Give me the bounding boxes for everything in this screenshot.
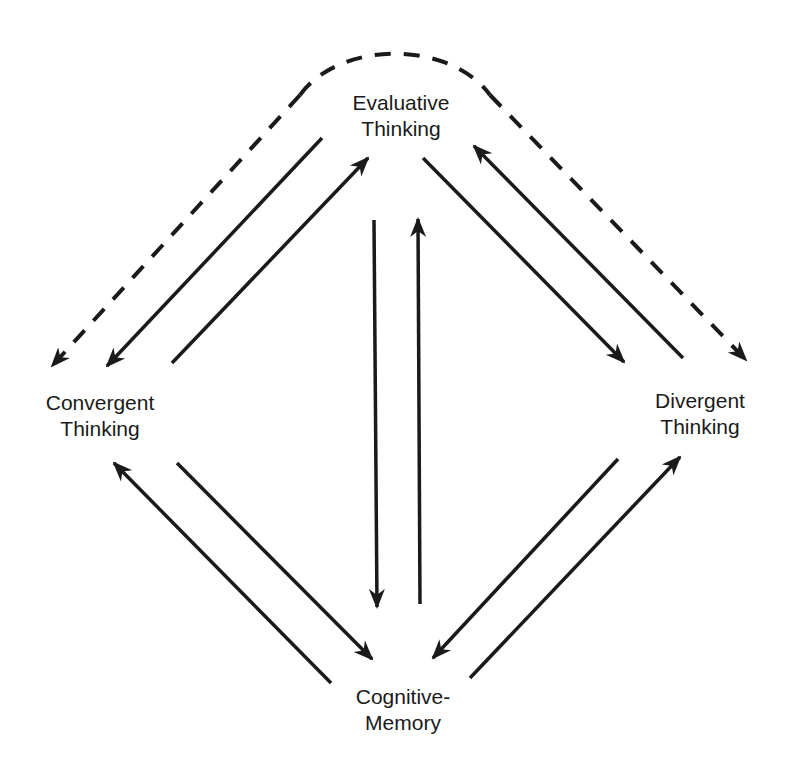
node-divergent-line-1: Divergent bbox=[655, 388, 745, 414]
node-evaluative-thinking: Evaluative Thinking bbox=[353, 90, 450, 142]
edge-convergent-to-evaluative bbox=[172, 158, 368, 363]
node-evaluative-line-1: Evaluative bbox=[353, 90, 450, 116]
edge-divergent-to-evaluative bbox=[474, 146, 683, 358]
edge-cognitive-to-convergent bbox=[114, 463, 331, 683]
node-evaluative-line-2: Thinking bbox=[353, 116, 450, 142]
edge-cognitive-to-evaluative bbox=[418, 219, 420, 604]
dashed-arc-edge bbox=[300, 54, 490, 95]
edge-evaluative-to-divergent bbox=[423, 158, 624, 362]
node-cognitive-memory: Cognitive- Memory bbox=[356, 684, 451, 736]
node-convergent-thinking: Convergent Thinking bbox=[46, 390, 155, 442]
dashed-edge-evaluative-to-convergent bbox=[52, 95, 300, 366]
edge-cognitive-to-divergent bbox=[470, 457, 680, 678]
node-divergent-line-2: Thinking bbox=[655, 414, 745, 440]
edge-evaluative-to-convergent bbox=[107, 138, 322, 366]
edge-evaluative-to-cognitive bbox=[374, 220, 377, 607]
node-cognitive-line-1: Cognitive- bbox=[356, 684, 451, 710]
node-cognitive-line-2: Memory bbox=[356, 710, 451, 736]
node-divergent-thinking: Divergent Thinking bbox=[655, 388, 745, 440]
edge-convergent-to-cognitive bbox=[177, 463, 372, 659]
node-convergent-line-2: Thinking bbox=[46, 416, 155, 442]
edge-divergent-to-cognitive bbox=[433, 459, 618, 658]
node-convergent-line-1: Convergent bbox=[46, 390, 155, 416]
dashed-edge-evaluative-to-divergent bbox=[490, 95, 746, 360]
